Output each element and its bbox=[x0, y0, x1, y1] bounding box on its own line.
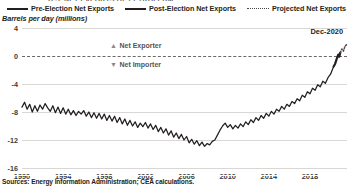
date-callout-label: Dec-2020 bbox=[311, 27, 343, 36]
annotation-net-exporter-label: Net Exporter bbox=[119, 42, 161, 49]
y-tick-label: -12 bbox=[8, 136, 18, 145]
legend-swatch-solid-thin-icon bbox=[7, 8, 28, 10]
series-line bbox=[334, 53, 341, 67]
y-tick-label: -8 bbox=[12, 108, 18, 117]
legend-item-post-election: Post-Election Net Exports bbox=[125, 4, 236, 13]
legend-swatch-dotted-icon bbox=[247, 8, 269, 9]
triangle-up-icon: ▲ bbox=[110, 42, 117, 49]
cut-off-title: U.S. NET EXPORTS OF PETROLEUM bbox=[48, 0, 173, 1]
legend-label-projected: Projected Net Exports bbox=[272, 4, 346, 13]
annotation-net-importer-label: Net Importer bbox=[119, 61, 161, 68]
y-tick-label: -4 bbox=[12, 80, 18, 89]
net-exports-chart-figure: U.S. NET EXPORTS OF PETROLEUM Pre-Electi… bbox=[0, 0, 353, 194]
legend-item-pre-election: Pre-Election Net Exports bbox=[7, 4, 114, 13]
source-note: Sources: Energy Information Administrati… bbox=[2, 178, 194, 185]
series-line bbox=[340, 45, 346, 53]
plot-area: 40-4-8-12-16 199019941998200220062010201… bbox=[22, 28, 347, 168]
chart-legend: Pre-Election Net Exports Post-Election N… bbox=[0, 4, 353, 13]
annotation-net-importer: ▼ Net Importer bbox=[110, 61, 161, 68]
series-line bbox=[22, 67, 334, 147]
y-tick-label: 0 bbox=[14, 52, 18, 61]
series-lines bbox=[22, 28, 347, 168]
annotation-net-exporter: ▲ Net Exporter bbox=[110, 42, 161, 49]
y-tick-label: 4 bbox=[14, 24, 18, 33]
footer-divider bbox=[0, 175, 353, 176]
y-axis-unit-label: Barrels per day (millions) bbox=[2, 14, 87, 23]
legend-item-projected: Projected Net Exports bbox=[247, 4, 346, 13]
legend-label-post-election: Post-Election Net Exports bbox=[149, 4, 236, 13]
legend-swatch-solid-thick-icon bbox=[125, 8, 146, 10]
legend-label-pre-election: Pre-Election Net Exports bbox=[31, 4, 114, 13]
triangle-down-icon: ▼ bbox=[110, 61, 117, 68]
